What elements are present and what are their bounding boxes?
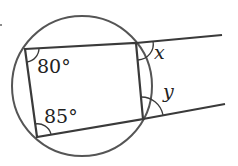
geometry-diagram: 80° 85° x y [0,0,238,166]
lower-extension-line [143,104,225,119]
diagram-canvas: 80° 85° x y [0,0,238,166]
circumscribed-circle [12,16,152,156]
stray-dot [0,24,2,26]
upper-extension-line [136,35,222,43]
angle-arc-y [141,97,163,115]
label-angle-y: y [162,80,174,102]
label-angle-top-left: 80° [37,55,71,77]
label-angle-bottom-left: 85° [44,105,78,127]
label-angle-x: x [154,41,165,63]
angle-arc-x [138,41,153,60]
